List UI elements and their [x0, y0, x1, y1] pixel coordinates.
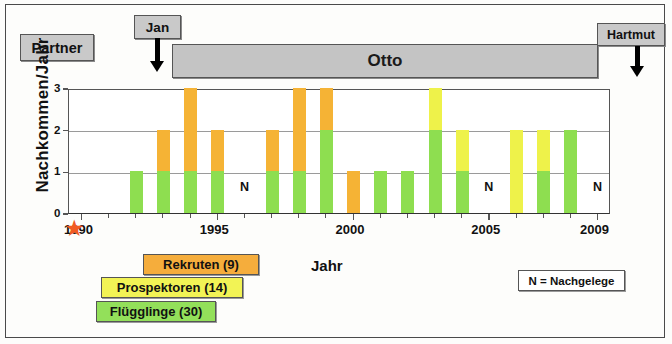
x-tick-1993	[162, 214, 163, 218]
bar-seg-2008-flügglinge	[564, 130, 577, 213]
legend-rekruten-label: Rekruten (9)	[163, 257, 239, 272]
hartmut-label-box: Hartmut	[597, 23, 665, 46]
bar-2002	[401, 171, 414, 213]
bar-seg-1998-flügglinge	[293, 171, 306, 213]
bar-seg-2007-prospektoren	[537, 130, 550, 172]
x-tick-1994	[190, 214, 191, 218]
n-marker-1996: N	[240, 180, 249, 194]
jan-label-box: Jan	[134, 15, 181, 39]
legend-nachgelege-label: N = Nachgelege	[529, 275, 615, 287]
x-tick-label-1995: 1995	[200, 222, 229, 237]
x-tick-label-2009: 2009	[580, 222, 609, 237]
otto-label: Otto	[368, 51, 403, 71]
bar-seg-2006-prospektoren	[510, 130, 523, 213]
bar-1997	[266, 130, 279, 213]
y-tick-label-3: 3	[54, 82, 59, 94]
hartmut-down-arrow-icon	[630, 46, 644, 77]
bar-2003	[429, 88, 442, 213]
legend-nachgelege: N = Nachgelege	[518, 270, 625, 291]
bar-1999	[320, 88, 333, 213]
x-tick-2001	[380, 214, 381, 218]
bar-2000	[347, 171, 360, 213]
x-tick-2005	[488, 214, 489, 220]
bar-1992	[130, 171, 143, 213]
bar-seg-2004-prospektoren	[456, 130, 469, 172]
bar-seg-2001-flügglinge	[374, 171, 387, 213]
x-tick-2008	[570, 214, 571, 218]
bar-seg-2000-rekruten	[347, 171, 360, 213]
chart-screenshot: Partner Jan Otto Hartmut Nachkommen/Jahr…	[0, 0, 672, 344]
bar-seg-2003-flügglinge	[429, 130, 442, 213]
bar-seg-2002-flügglinge	[401, 171, 414, 213]
bar-seg-1997-rekruten	[266, 130, 279, 172]
bar-seg-2007-flügglinge	[537, 171, 550, 213]
bar-seg-1999-rekruten	[320, 88, 333, 130]
jan-down-arrow-icon	[150, 38, 164, 72]
bar-seg-1995-flügglinge	[211, 171, 224, 213]
y-tick-label-2: 2	[54, 124, 59, 136]
gridline-2	[69, 131, 609, 132]
plot-area	[68, 89, 610, 214]
partner-label-box: Partner	[20, 34, 94, 61]
bar-2004	[456, 130, 469, 213]
hartmut-label: Hartmut	[607, 28, 655, 42]
n-marker-2005: N	[484, 180, 493, 194]
bar-2001	[374, 171, 387, 213]
x-tick-1997	[271, 214, 272, 218]
x-tick-2009	[597, 214, 598, 220]
bar-1998	[293, 88, 306, 213]
bar-seg-1993-rekruten	[157, 130, 170, 172]
bar-seg-2004-flügglinge	[456, 171, 469, 213]
x-tick-2003	[434, 214, 435, 218]
legend-prospektoren: Prospektoren (14)	[101, 277, 243, 298]
bar-seg-1994-rekruten	[184, 88, 197, 171]
x-tick-1995	[217, 214, 218, 220]
bar-1994	[184, 88, 197, 213]
x-tick-1991	[108, 214, 109, 218]
legend-rekruten: Rekruten (9)	[143, 254, 259, 275]
x-tick-2007	[543, 214, 544, 218]
legend-prospektoren-label: Prospektoren (14)	[117, 280, 228, 295]
y-tick-label-1: 1	[54, 165, 59, 177]
bar-2008	[564, 130, 577, 213]
x-tick-2004	[461, 214, 462, 218]
x-tick-2006	[516, 214, 517, 218]
x-tick-2002	[407, 214, 408, 218]
legend-fluegglinge-label: Flügglinge (30)	[110, 304, 202, 319]
x-tick-1996	[244, 214, 245, 218]
bar-seg-1994-flügglinge	[184, 171, 197, 213]
bar-1993	[157, 130, 170, 213]
x-tick-label-2000: 2000	[336, 222, 365, 237]
jan-label: Jan	[146, 20, 169, 35]
bar-seg-1993-flügglinge	[157, 171, 170, 213]
bar-seg-2003-prospektoren	[429, 88, 442, 130]
bar-2006	[510, 130, 523, 213]
otto-timeline-bar: Otto	[172, 44, 598, 78]
legend-fluegglinge: Flügglinge (30)	[96, 301, 216, 322]
bar-seg-1997-flügglinge	[266, 171, 279, 213]
x-tick-2000	[353, 214, 354, 220]
chart-frame: Partner Jan Otto Hartmut Nachkommen/Jahr…	[5, 4, 665, 338]
bar-seg-1992-flügglinge	[130, 171, 143, 213]
bar-seg-1998-rekruten	[293, 88, 306, 171]
y-tick-mark-3	[63, 88, 68, 89]
y-tick-mark-2	[63, 130, 68, 131]
gridline-1	[69, 173, 609, 174]
star-icon: ★	[64, 217, 86, 239]
bar-seg-1999-flügglinge	[320, 130, 333, 213]
bar-seg-1995-rekruten	[211, 130, 224, 172]
y-tick-mark-1	[63, 172, 68, 173]
x-tick-1999	[325, 214, 326, 218]
x-tick-1998	[298, 214, 299, 218]
x-tick-1992	[135, 214, 136, 218]
bar-2007	[537, 130, 550, 213]
x-axis-title: Jahr	[311, 257, 343, 274]
y-axis-title: Nachkommen/Jahr	[33, 35, 53, 195]
bar-1995	[211, 130, 224, 213]
n-marker-2009: N	[593, 180, 602, 194]
y-tick-label-0: 0	[54, 207, 59, 219]
x-tick-label-2005: 2005	[471, 222, 500, 237]
